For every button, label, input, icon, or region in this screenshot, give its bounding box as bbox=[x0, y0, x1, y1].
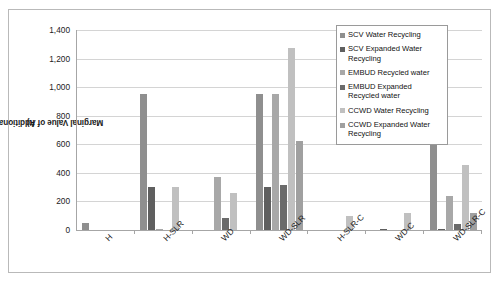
x-axis-label-cell: WD-SLR-C bbox=[424, 234, 482, 280]
y-axis-tick-label: 1,200 bbox=[49, 54, 70, 64]
legend-item[interactable]: SCV Water Recycling bbox=[340, 30, 443, 39]
y-axis-tick-label: 400 bbox=[56, 168, 70, 178]
x-axis-tick-label: H bbox=[103, 232, 114, 243]
bar bbox=[140, 94, 147, 230]
bar bbox=[264, 187, 271, 230]
y-axis-tick-label: 1,400 bbox=[49, 25, 70, 35]
legend-swatch-icon bbox=[340, 85, 345, 90]
x-axis-label-cell: H bbox=[76, 234, 134, 280]
legend-label: EMBUD Expanded Recycled water bbox=[348, 82, 443, 101]
y-axis-tick-label: 600 bbox=[56, 139, 70, 149]
bar-group bbox=[77, 30, 135, 230]
legend-swatch-icon bbox=[340, 70, 345, 75]
legend-swatch-icon bbox=[340, 123, 345, 128]
legend-item[interactable]: SCV Expanded Water Recycling bbox=[340, 44, 443, 63]
legend-swatch-icon bbox=[340, 33, 345, 38]
bar bbox=[82, 223, 89, 230]
legend-swatch-icon bbox=[340, 47, 345, 52]
bar bbox=[272, 94, 279, 230]
chart-frame: Marginal Value of Additional Capacity ($… bbox=[8, 9, 491, 273]
x-axis-tick-labels: HH-SLRWDWD-SLRH-SLR-CWD-CWD-SLR-C bbox=[76, 234, 482, 280]
bar bbox=[280, 185, 287, 230]
x-axis-label-cell: H-SLR-C bbox=[308, 234, 366, 280]
y-axis-tick-label: 0 bbox=[65, 225, 70, 235]
legend-label: CCWD Water Recycling bbox=[348, 106, 429, 115]
legend-item[interactable]: CCWD Expanded Water Recycling bbox=[340, 120, 443, 139]
y-axis-title: Marginal Value of Additional Capacity ($… bbox=[15, 22, 35, 222]
legend-swatch-icon bbox=[340, 108, 345, 113]
legend-label: EMBUD Recycled water bbox=[348, 68, 429, 77]
bar bbox=[430, 137, 437, 230]
x-axis-label-cell: WD-C bbox=[366, 234, 424, 280]
bar bbox=[256, 94, 263, 230]
bar-group bbox=[135, 30, 193, 230]
x-axis-label-cell: WD bbox=[192, 234, 250, 280]
y-axis-tick-label: 800 bbox=[56, 111, 70, 121]
bar bbox=[288, 48, 295, 230]
bar bbox=[446, 196, 453, 230]
legend-label: SCV Expanded Water Recycling bbox=[348, 44, 443, 63]
bar bbox=[148, 187, 155, 230]
y-axis-tick-labels: 1,4001,2001,0008006004002000 bbox=[39, 30, 73, 230]
legend-item[interactable]: CCWD Water Recycling bbox=[340, 106, 443, 115]
chart-legend: SCV Water RecyclingSCV Expanded Water Re… bbox=[336, 25, 448, 145]
legend-item[interactable]: EMBUD Expanded Recycled water bbox=[340, 82, 443, 101]
bar-group bbox=[251, 30, 309, 230]
legend-label: SCV Water Recycling bbox=[348, 30, 421, 39]
y-axis-tick-label: 200 bbox=[56, 196, 70, 206]
legend-label: CCWD Expanded Water Recycling bbox=[348, 120, 443, 139]
x-axis-label-cell: H-SLR bbox=[134, 234, 192, 280]
bar bbox=[230, 193, 237, 230]
bar-group bbox=[193, 30, 251, 230]
legend-item[interactable]: EMBUD Recycled water bbox=[340, 68, 443, 77]
bar bbox=[214, 177, 221, 230]
y-axis-tick-label: 1,000 bbox=[49, 82, 70, 92]
x-axis-label-cell: WD-SLR bbox=[250, 234, 308, 280]
